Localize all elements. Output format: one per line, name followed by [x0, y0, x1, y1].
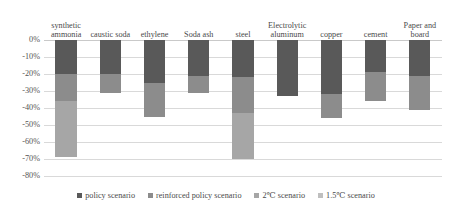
- legend-label: 2℃ scenario: [262, 191, 305, 200]
- category-label: ethylene: [132, 30, 176, 40]
- category-label: caustic soda: [88, 30, 132, 40]
- bar-segment: [55, 40, 76, 74]
- legend-item[interactable]: 2℃ scenario: [254, 191, 305, 200]
- bar-caustic-soda[interactable]: [100, 40, 121, 176]
- legend-swatch-icon: [77, 193, 82, 198]
- y-axis-tick-label: -10%: [0, 53, 40, 61]
- category-label: Soda ash: [177, 30, 221, 40]
- bar-segment: [409, 40, 430, 76]
- category-label: cement: [354, 30, 398, 40]
- bar-soda-ash[interactable]: [188, 40, 209, 176]
- y-axis: 0%-10%-20%-30%-40%-50%-60%-70%-80%: [0, 40, 40, 176]
- y-axis-tick-label: 0%: [0, 36, 40, 44]
- chart-legend: policy scenarioreinforced policy scenari…: [0, 191, 452, 200]
- y-axis-tick-label: -40%: [0, 104, 40, 112]
- legend-label: reinforced policy scenario: [156, 191, 241, 200]
- bar-segment: [188, 76, 209, 93]
- bar-segment: [232, 77, 253, 113]
- bar-segment: [55, 101, 76, 157]
- legend-swatch-icon: [148, 193, 153, 198]
- bar-segment: [55, 74, 76, 101]
- y-axis-tick-label: -70%: [0, 155, 40, 163]
- y-axis-tick-label: -80%: [0, 172, 40, 180]
- bar-segment: [144, 40, 165, 83]
- legend-label: policy scenario: [85, 191, 135, 200]
- bar-chart: 0%-10%-20%-30%-40%-50%-60%-70%-80% synth…: [0, 0, 452, 218]
- bar-segment: [365, 40, 386, 72]
- bar-ethylene[interactable]: [144, 40, 165, 176]
- category-label: synthetic ammonia: [44, 21, 88, 40]
- bar-segment: [321, 40, 342, 94]
- category-label: copper: [309, 30, 353, 40]
- bar-cement[interactable]: [365, 40, 386, 176]
- bar-segment: [232, 40, 253, 77]
- legend-item[interactable]: reinforced policy scenario: [148, 191, 241, 200]
- bar-segment: [100, 74, 121, 93]
- gridline: [44, 176, 442, 177]
- legend-item[interactable]: policy scenario: [77, 191, 135, 200]
- category-label: steel: [221, 30, 265, 40]
- y-axis-tick-label: -20%: [0, 70, 40, 78]
- bar-segment: [277, 40, 298, 96]
- y-axis-tick-label: -30%: [0, 87, 40, 95]
- y-axis-tick-label: -60%: [0, 138, 40, 146]
- bar-segment: [232, 113, 253, 159]
- category-axis-labels: synthetic ammoniacaustic sodaethyleneSod…: [44, 6, 442, 40]
- bar-synthetic-ammonia[interactable]: [55, 40, 76, 176]
- legend-swatch-icon: [318, 193, 323, 198]
- y-axis-tick-label: -50%: [0, 121, 40, 129]
- bar-segment: [409, 76, 430, 110]
- legend-item[interactable]: 1.5℃ scenario: [318, 191, 375, 200]
- category-label: Electrolytic aluminum: [265, 21, 309, 40]
- legend-label: 1.5℃ scenario: [326, 191, 375, 200]
- bar-copper[interactable]: [321, 40, 342, 176]
- category-label: Paper and board: [398, 21, 442, 40]
- bar-paper-and-board[interactable]: [409, 40, 430, 176]
- bar-steel[interactable]: [232, 40, 253, 176]
- bar-electrolytic-aluminum[interactable]: [277, 40, 298, 176]
- bar-segment: [365, 72, 386, 101]
- plot-area: [44, 40, 442, 176]
- bar-segment: [321, 94, 342, 118]
- bar-segment: [188, 40, 209, 76]
- bar-segment: [100, 40, 121, 74]
- bar-segment: [144, 83, 165, 117]
- legend-swatch-icon: [254, 193, 259, 198]
